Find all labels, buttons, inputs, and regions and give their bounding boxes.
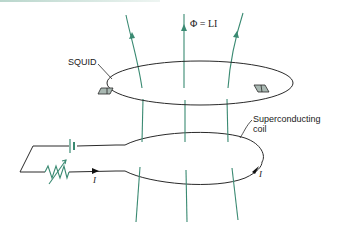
circuit-current-arrow-icon — [92, 168, 99, 174]
coil-current-label: I — [259, 169, 262, 179]
coil-label-line2: coil — [253, 124, 267, 134]
external-circuit — [20, 145, 116, 172]
coil-label-line1: Superconducting — [253, 114, 321, 124]
field-line-right-top — [228, 13, 243, 88]
field-line-right-bottom — [232, 168, 238, 220]
superconducting-coil — [116, 132, 263, 184]
arrow-up-icon — [233, 31, 239, 38]
field-line-center-bottom — [186, 170, 187, 222]
field-line-left-mid — [142, 99, 143, 142]
magnetic-field-lines — [126, 13, 243, 222]
squid-leader-line — [98, 64, 112, 79]
coil-leader-line — [240, 120, 252, 138]
arrow-up-icon — [181, 24, 187, 31]
field-line-left-bottom — [136, 167, 140, 222]
squid-junction-left — [98, 88, 113, 94]
field-line-right-mid — [227, 99, 228, 142]
squid-loop — [107, 61, 293, 105]
variable-resistor-icon — [45, 160, 69, 184]
battery-icon — [70, 139, 74, 153]
squid-diagram: SQUID Φ = LI Superconducting coil I I — [0, 0, 339, 232]
squid-label: SQUID — [68, 57, 97, 67]
circuit-current-label: I — [93, 175, 96, 185]
field-line-left-top — [126, 15, 142, 88]
flux-equation-label: Φ = LI — [190, 19, 217, 29]
